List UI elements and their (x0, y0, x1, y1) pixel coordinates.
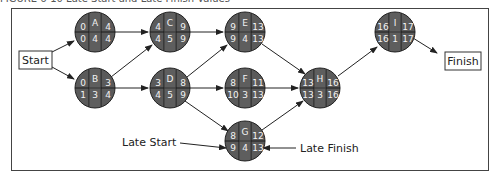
node-name: H (317, 74, 324, 84)
duration: 4 (242, 143, 248, 153)
late-finish: 4 (105, 34, 111, 44)
finish-box: Finish (445, 52, 481, 70)
duration: 5 (167, 34, 173, 44)
early-start: 8 (230, 78, 236, 88)
early-start: 0 (80, 78, 86, 88)
node-name: I (394, 18, 397, 28)
early-finish: 16 (327, 78, 339, 88)
early-finish: 11 (252, 78, 263, 88)
node-name: D (167, 74, 174, 84)
late-start: 9 (230, 34, 236, 44)
early-finish: 17 (402, 22, 413, 32)
duration: 5 (167, 90, 173, 100)
duration: 3 (317, 90, 323, 100)
activity-node-e: E9139413 (225, 12, 265, 52)
early-finish: 3 (105, 78, 111, 88)
early-finish: 8 (180, 78, 186, 88)
node-name: A (92, 18, 99, 28)
late-start: 16 (377, 34, 389, 44)
activity-node-h: H131613316 (300, 68, 340, 108)
edge-d-e (187, 45, 227, 77)
late-finish: 13 (252, 143, 263, 153)
late-start: 1 (80, 90, 86, 100)
early-start: 16 (377, 22, 389, 32)
activity-node-c: C49459 (150, 12, 190, 52)
node-name: C (167, 18, 173, 28)
early-start: 0 (80, 22, 86, 32)
edge-start-a (52, 41, 74, 52)
edge-e-h (262, 44, 305, 74)
late-finish: 16 (327, 90, 339, 100)
late-finish: 17 (402, 34, 413, 44)
start-label: Start (22, 54, 50, 67)
edge-start-b (52, 67, 74, 79)
early-start: 4 (155, 22, 161, 32)
early-start: 13 (302, 78, 313, 88)
finish-label: Finish (447, 55, 478, 68)
late-start: 13 (302, 90, 313, 100)
early-start: 8 (230, 131, 236, 141)
late-start: 4 (155, 34, 161, 44)
late-start: 9 (230, 143, 236, 153)
late-finish: 13 (252, 90, 263, 100)
early-finish: 9 (180, 22, 186, 32)
duration: 4 (92, 34, 98, 44)
late-finish-annotation: Late Finish (300, 142, 359, 155)
late-start: 0 (80, 34, 86, 44)
late-start-annotation: Late Start (122, 136, 177, 149)
activity-node-a: A04044 (75, 12, 115, 52)
edge-g-h (262, 101, 303, 130)
edge-h-i (338, 47, 377, 76)
early-finish: 13 (252, 22, 263, 32)
duration: 1 (392, 34, 398, 44)
early-finish: 4 (105, 22, 111, 32)
late-start: 10 (227, 90, 239, 100)
edge-i-finish (413, 38, 437, 53)
edge-d-g (185, 101, 228, 131)
duration: 3 (92, 90, 98, 100)
node-name: F (242, 74, 247, 84)
activity-node-i: I161716117 (375, 12, 415, 52)
duration: 3 (242, 90, 248, 100)
start-box: Start (19, 51, 52, 69)
late-start: 4 (155, 90, 161, 100)
duration: 4 (242, 34, 248, 44)
activity-node-b: B03134 (75, 68, 115, 108)
early-start: 3 (155, 78, 161, 88)
late-finish: 9 (180, 34, 186, 44)
late-finish: 9 (180, 90, 186, 100)
node-name: E (242, 18, 248, 28)
activity-node-d: D38459 (150, 68, 190, 108)
early-start: 9 (230, 22, 236, 32)
activity-node-g: G8129413 (225, 121, 265, 161)
node-name: B (92, 74, 98, 84)
edge-b-c (111, 45, 152, 77)
late-finish: 4 (105, 90, 111, 100)
node-name: G (242, 127, 249, 137)
network-diagram: Start Finish A04044B03134C49459D38459E91… (0, 0, 498, 181)
early-finish: 12 (252, 131, 263, 141)
late-start-pointer (180, 143, 226, 148)
late-finish: 13 (252, 34, 263, 44)
activity-node-f: F81110313 (225, 68, 265, 108)
